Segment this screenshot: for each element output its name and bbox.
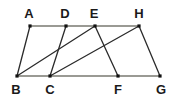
vertex-dot-d xyxy=(64,24,67,27)
vertex-label-d: D xyxy=(60,6,69,21)
geometry-figure: ADEHBCFG xyxy=(0,0,178,98)
vertex-dot-layer xyxy=(15,24,161,77)
vertex-label-c: C xyxy=(45,82,55,97)
vertex-dot-g xyxy=(158,74,161,77)
segment-hg xyxy=(139,26,160,76)
segment-ef xyxy=(95,26,118,76)
vertex-dot-h xyxy=(137,24,140,27)
vertex-label-g: G xyxy=(156,82,166,97)
vertex-label-b: B xyxy=(11,82,20,97)
vertex-label-h: H xyxy=(134,6,143,21)
segment-layer xyxy=(17,26,160,76)
vertex-label-layer: ADEHBCFG xyxy=(11,6,166,97)
vertex-label-e: E xyxy=(90,6,99,21)
vertex-dot-e xyxy=(93,24,96,27)
vertex-dot-f xyxy=(116,74,119,77)
vertex-label-f: F xyxy=(114,82,122,97)
vertex-dot-a xyxy=(28,24,31,27)
vertex-label-a: A xyxy=(24,6,34,21)
vertex-dot-b xyxy=(15,74,18,77)
vertex-dot-c xyxy=(48,74,51,77)
figure-canvas: ADEHBCFG xyxy=(0,0,178,98)
